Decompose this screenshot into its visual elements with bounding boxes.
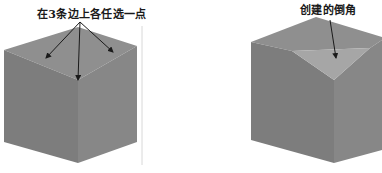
right-cube <box>251 17 382 163</box>
left-cube <box>4 27 137 163</box>
left-caption: 在3条边上各任选一点 <box>37 5 147 21</box>
right-cube-top-face <box>251 17 382 51</box>
figure-canvas <box>0 0 382 173</box>
right-caption: 创建的倒角 <box>300 1 357 17</box>
